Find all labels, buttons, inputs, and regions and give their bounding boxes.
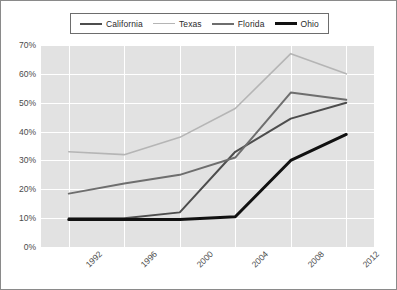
y-axis-tick-label: 20% bbox=[19, 184, 36, 194]
x-axis-tick-label: 2000 bbox=[194, 249, 214, 269]
y-axis-tick-label: 10% bbox=[19, 213, 36, 223]
x-axis-tick-label: 2008 bbox=[305, 249, 325, 269]
series-line-ohio bbox=[69, 134, 347, 219]
y-axis-labels: 0%10%20%30%40%50%60%70% bbox=[1, 45, 36, 247]
legend-item-texas[interactable]: Texas bbox=[153, 19, 202, 29]
legend-line-swatch-icon bbox=[153, 23, 175, 24]
legend-item-label: Florida bbox=[238, 19, 265, 29]
plot-area bbox=[41, 45, 374, 247]
legend-item-label: Ohio bbox=[301, 19, 319, 29]
chart-legend: CaliforniaTexasFloridaOhio bbox=[70, 13, 329, 34]
x-axis-labels: 199219962000200420082012 bbox=[41, 247, 374, 290]
series-lines bbox=[41, 45, 374, 247]
y-axis-tick-label: 50% bbox=[19, 98, 36, 108]
legend-item-label: California bbox=[106, 19, 143, 29]
series-line-florida bbox=[69, 93, 347, 194]
legend-item-label: Texas bbox=[179, 19, 202, 29]
y-axis-tick-label: 30% bbox=[19, 155, 36, 165]
y-axis-tick-label: 60% bbox=[19, 69, 36, 79]
legend-line-swatch-icon bbox=[275, 22, 297, 25]
y-axis-tick-label: 0% bbox=[24, 242, 36, 252]
y-axis-tick-label: 70% bbox=[19, 40, 36, 50]
x-axis-tick-label: 1996 bbox=[139, 249, 159, 269]
series-line-texas bbox=[69, 54, 347, 155]
y-axis-tick-label: 40% bbox=[19, 127, 36, 137]
line-chart: CaliforniaTexasFloridaOhio 0%10%20%30%40… bbox=[0, 0, 397, 290]
series-line-california bbox=[69, 103, 347, 218]
legend-item-ohio[interactable]: Ohio bbox=[275, 19, 319, 29]
legend-line-swatch-icon bbox=[212, 23, 234, 25]
legend-item-california[interactable]: California bbox=[80, 19, 143, 29]
legend-item-florida[interactable]: Florida bbox=[212, 19, 265, 29]
legend-line-swatch-icon bbox=[80, 23, 102, 25]
x-axis-tick-label: 2012 bbox=[361, 249, 381, 269]
x-axis-tick-label: 2004 bbox=[250, 249, 270, 269]
x-axis-tick-label: 1992 bbox=[83, 249, 103, 269]
